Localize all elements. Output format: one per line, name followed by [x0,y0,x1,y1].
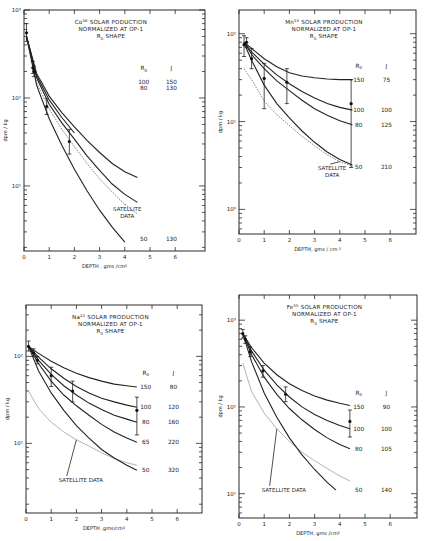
data-point [50,374,53,377]
satellite-pointer [270,429,277,486]
panel-co56: 012345610¹10²10³DEPTH , gms /cm²dpm / kg… [2,7,205,270]
y-tick-label: 10³ [227,317,236,323]
plot-frame [24,10,205,251]
data-point [244,338,247,341]
y-tick-label: 10² [12,95,21,101]
legend-header-j: J [385,390,388,397]
x-tick-label: 4 [125,516,129,522]
y-tick-label: 10² [227,404,236,410]
data-point [242,43,245,46]
legend-r0-value: 50 [355,487,363,493]
model-curve [244,43,352,165]
legend-header-j: J [170,65,173,72]
legend-j-value: 100 [381,426,392,432]
chart-subtitle: NORMALIZED AT OP-1 [78,26,143,32]
x-tick-label: 2 [288,521,292,527]
x-tick-label: 1 [49,516,53,522]
chart-shape-label: R0 SHAPE [310,318,338,326]
data-point [350,102,353,105]
x-tick-label: 3 [100,516,104,522]
legend-j-value: 140 [381,487,392,493]
y-tick-label: 10¹ [12,183,21,189]
x-tick-label: 0 [237,237,241,243]
data-point [348,420,351,423]
x-tick-label: 4 [123,254,127,260]
satellite-label: SATELLITE [318,165,347,171]
x-tick-label: 4 [338,237,342,243]
legend-r0-value: 80 [140,85,148,91]
x-tick-label: 2 [288,237,292,243]
satellite-data-curve [29,391,137,465]
legend-r0-value: 50 [355,164,363,170]
data-point [261,369,264,372]
data-point [135,409,138,412]
x-axis-label: DEPTH ,gms/cm² [83,525,125,532]
data-point [250,57,253,60]
data-point [68,140,71,143]
panel-fe55: 012345610¹10²10³DEPTH, gms /cm²dpm / kgF… [217,295,417,537]
legend-j-value: 100 [381,107,392,113]
x-tick-label: 3 [313,521,317,527]
y-tick-label: 10¹ [227,119,236,125]
x-axis-label: DEPTH, gms /cm² [296,530,340,537]
x-tick-label: 1 [47,254,51,260]
satellite-label: SATELLITE [113,206,142,212]
model-curve [29,346,137,470]
legend-j-value: 80 [170,384,178,390]
legend-r0-value: 80 [355,122,363,128]
x-tick-label: 1 [262,521,266,527]
x-tick-label: 5 [363,521,367,527]
legend-j-value: 120 [168,404,179,410]
y-tick-label: 10¹ [227,491,236,497]
legend-r0-value: 100 [353,107,364,113]
panel-mn54: 012345610⁰10¹10²DEPTH, gms / cm ²dpm / k… [217,10,416,253]
x-tick-label: 5 [150,516,154,522]
panel-na22: 012345610¹10²DEPTH ,gms/cm²dpm / kgNa22 … [4,305,202,532]
data-point [284,393,287,396]
y-axis-label: dpm / kg [217,111,224,133]
data-point [263,77,266,80]
chart-title: Na22 SOLAR PRODUCTION [72,313,149,321]
chart-subtitle: NORMALIZED AT OP-1 [78,321,143,327]
legend-r0-value: 100 [353,426,364,432]
y-axis-label: dpm / kg [2,119,9,141]
legend-j-value: 75 [383,77,391,83]
y-tick-label: 10¹ [14,440,23,446]
x-tick-label: 6 [388,521,392,527]
chart-shape-label: R0 SHAPE [310,33,338,41]
x-tick-label: 0 [22,254,26,260]
satellite-pointer [67,440,77,476]
model-curve [29,346,137,407]
data-point [241,332,244,335]
x-tick-label: 3 [98,254,102,260]
model-curve [244,42,352,125]
legend-r0-value: 65 [142,439,150,445]
satellite-data-curve [27,38,138,214]
model-curve [27,37,125,243]
legend-r0-value: 100 [140,404,151,410]
legend-header-r0: R0 [140,65,147,73]
model-curve [243,334,350,449]
chart-title: Fe55 SOLAR PRODUCTION [287,303,363,311]
y-axis-label: dpm / kg [4,398,11,420]
chart-title: Co56 SOLAR PODUCTION [75,18,147,26]
legend-j-value: 160 [168,419,179,425]
legend-r0-value: 80 [355,446,363,452]
legend-j-value: 90 [383,404,391,410]
data-point [45,105,48,108]
x-tick-label: 6 [388,237,392,243]
data-point [32,351,35,354]
x-tick-label: 0 [237,521,241,527]
x-axis-label: DEPTH, gms / cm ² [294,246,341,253]
x-tick-label: 5 [363,237,367,243]
satellite-label: DATA [120,213,134,219]
x-tick-label: 6 [173,254,177,260]
data-point [285,81,288,84]
legend-r0-value: 150 [140,384,151,390]
legend-r0-value: 150 [353,77,364,83]
x-tick-label: 3 [313,237,317,243]
x-tick-label: 5 [148,254,152,260]
legend-r0-value: 50 [142,467,150,473]
y-tick-label: 10² [14,353,23,359]
y-axis-label: dpm / kg [217,395,224,417]
